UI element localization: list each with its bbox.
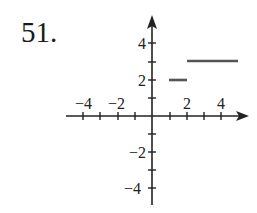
y-label-4: 4 <box>138 35 146 52</box>
x-label-neg4: −4 <box>75 95 92 112</box>
y-axis <box>147 15 157 205</box>
x-label-neg2: −2 <box>108 95 125 112</box>
y-label-neg4: −4 <box>124 180 141 197</box>
y-label-neg2: −2 <box>129 144 146 161</box>
x-axis <box>66 111 249 121</box>
x-label-4: 4 <box>217 95 225 112</box>
x-label-2: 2 <box>183 95 191 112</box>
graph: −4 −2 2 4 4 2 −2 −4 <box>0 0 257 213</box>
y-label-2: 2 <box>138 72 146 89</box>
